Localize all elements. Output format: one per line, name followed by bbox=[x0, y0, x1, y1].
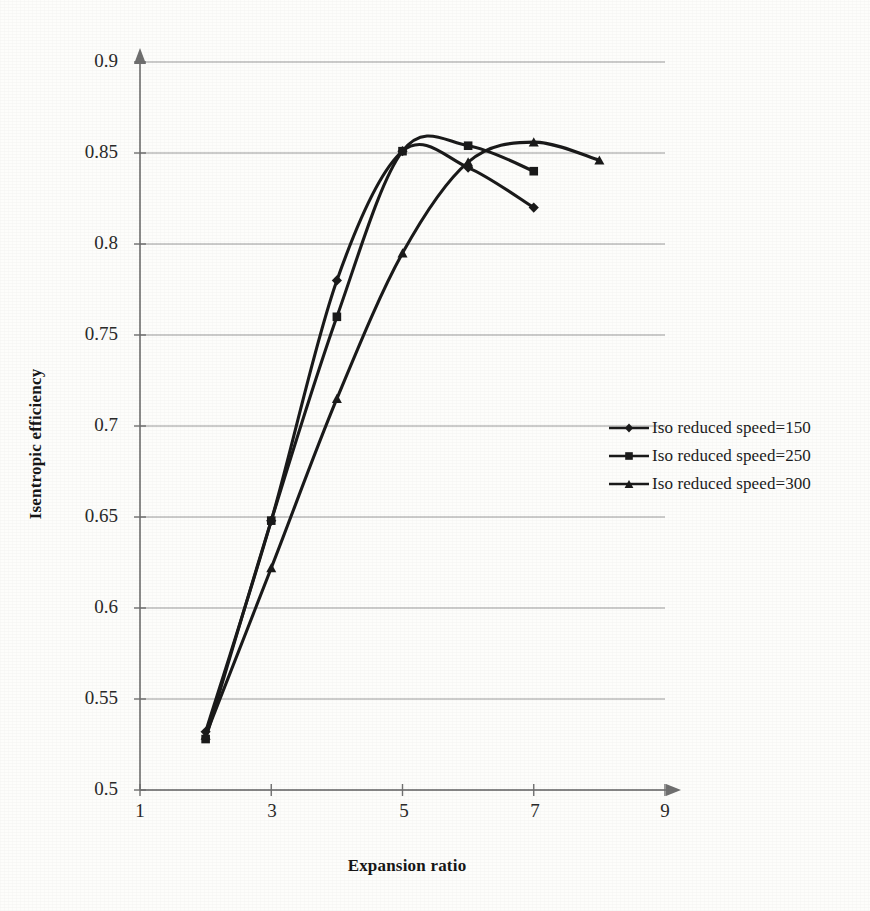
y-tick-label: 0.5 bbox=[56, 778, 118, 800]
series-triangle bbox=[201, 137, 605, 740]
y-tick-label: 0.6 bbox=[56, 596, 118, 618]
y-tick-label: 0.75 bbox=[56, 323, 118, 345]
data-point-marker bbox=[332, 394, 342, 403]
legend-item: Iso reduced speed=300 bbox=[608, 470, 864, 498]
chart-figure: 0.9 0.85 0.8 0.75 0.7 0.65 0.6 0.55 0.5 … bbox=[0, 0, 870, 911]
diamond-marker-icon bbox=[608, 421, 650, 435]
legend-label: Iso reduced speed=250 bbox=[652, 446, 811, 466]
x-tick-label: 7 bbox=[515, 800, 555, 822]
y-tick-label: 0.9 bbox=[56, 50, 118, 72]
y-tick-label: 0.85 bbox=[56, 141, 118, 163]
data-series-layer bbox=[201, 136, 605, 743]
y-tick-label: 0.8 bbox=[56, 232, 118, 254]
x-tick-label: 3 bbox=[252, 800, 292, 822]
data-point-marker bbox=[332, 275, 342, 285]
triangle-marker-icon bbox=[608, 477, 650, 491]
x-tick-label: 5 bbox=[384, 800, 424, 822]
series-diamond bbox=[201, 144, 539, 736]
x-tick-label: 1 bbox=[120, 800, 160, 822]
data-point-marker bbox=[333, 313, 342, 322]
data-point-marker bbox=[398, 147, 407, 156]
x-tick-label: 9 bbox=[645, 800, 685, 822]
data-point-marker bbox=[267, 516, 276, 525]
data-point-marker bbox=[464, 141, 473, 150]
series-square bbox=[201, 136, 538, 743]
y-tick-label: 0.55 bbox=[56, 687, 118, 709]
data-point-marker bbox=[529, 167, 538, 176]
legend-item: Iso reduced speed=150 bbox=[608, 414, 864, 442]
legend-label: Iso reduced speed=150 bbox=[652, 418, 811, 438]
x-axis-title: Expansion ratio bbox=[262, 856, 552, 876]
data-point-marker bbox=[266, 563, 276, 572]
chart-legend: Iso reduced speed=150 Iso reduced speed=… bbox=[608, 414, 864, 498]
square-marker-icon bbox=[608, 449, 650, 463]
gridlines bbox=[140, 62, 665, 790]
y-axis-title: Isentropic efficiency bbox=[26, 324, 46, 564]
legend-item: Iso reduced speed=250 bbox=[608, 442, 864, 470]
y-tick-label: 0.65 bbox=[56, 505, 118, 527]
legend-label: Iso reduced speed=300 bbox=[652, 474, 811, 494]
y-tick-label: 0.7 bbox=[56, 414, 118, 436]
